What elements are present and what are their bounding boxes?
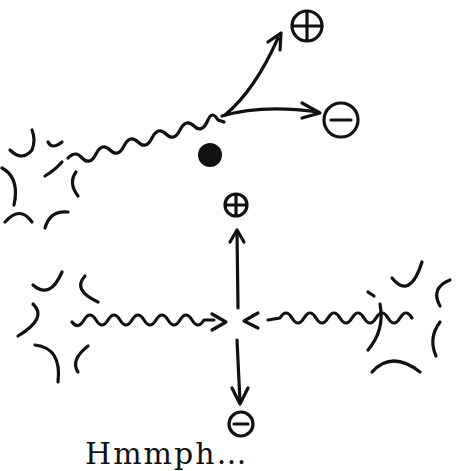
arrow-positive-top (225, 38, 278, 115)
negative-particle-top-icon (324, 103, 358, 137)
positive-particle-top-icon (292, 11, 322, 41)
arrow-down-bottom (237, 340, 240, 402)
positive-particle-middle-icon (225, 194, 247, 216)
burst-source-bottom-left (18, 272, 98, 382)
arrow-negative-top (222, 109, 318, 116)
arrow-up-bottom (237, 232, 238, 308)
diagram-caption: Hmmph… (85, 436, 249, 471)
arrow-head-bottom-right (244, 313, 258, 328)
nucleus-icon (198, 143, 222, 167)
arrow-head-bottom-left (212, 314, 226, 330)
photon-wave-bottom-left (72, 315, 214, 326)
burst-source-bottom-right (368, 262, 450, 372)
photon-wave-bottom-right (268, 313, 412, 323)
negative-particle-bottom-icon (229, 412, 253, 436)
burst-source-top-left (2, 130, 78, 228)
